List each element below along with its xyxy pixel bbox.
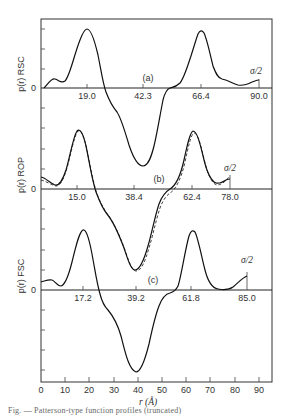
svg-text:50: 50	[157, 385, 167, 395]
svg-text:80: 80	[230, 385, 240, 395]
y-label-a: p(r) RSC	[16, 56, 26, 92]
svg-text:38.4: 38.4	[125, 192, 143, 202]
svg-text:78.0: 78.0	[221, 192, 239, 202]
panel-b: 0 p(r) ROP (b) 15.0 38.4 62.4 78.0 σ/2	[16, 130, 272, 271]
svg-text:20: 20	[84, 385, 94, 395]
svg-text:61.8: 61.8	[182, 293, 200, 303]
svg-text:66.4: 66.4	[192, 91, 210, 101]
panel-tag-b: (b)	[154, 174, 165, 184]
svg-text:85.0: 85.0	[238, 293, 256, 303]
svg-text:17.2: 17.2	[74, 293, 92, 303]
svg-text:15.0: 15.0	[68, 192, 86, 202]
zero-label-b: 0	[31, 184, 36, 194]
y-axis-ticks	[41, 29, 45, 370]
svg-text:0: 0	[38, 385, 43, 395]
svg-text:39.2: 39.2	[127, 293, 145, 303]
svg-text:90.0: 90.0	[250, 91, 268, 101]
zero-label-a: 0	[31, 83, 36, 93]
panel-tag-c: (c)	[148, 275, 159, 285]
sigma-label-c: σ/2	[241, 255, 253, 265]
sigma-label-b: σ/2	[224, 163, 236, 173]
x-axis-ticks	[65, 377, 259, 382]
sigma-label-a: σ/2	[250, 66, 262, 76]
svg-text:40: 40	[133, 385, 143, 395]
svg-text:19.0: 19.0	[78, 91, 96, 101]
figure-caption-partial: Fig. — Patterson-type function profiles …	[8, 406, 181, 415]
svg-text:62.4: 62.4	[183, 192, 201, 202]
svg-text:42.3: 42.3	[134, 91, 152, 101]
svg-text:60: 60	[181, 385, 191, 395]
svg-text:70: 70	[205, 385, 215, 395]
panel-tag-a: (a)	[143, 73, 154, 83]
svg-text:90: 90	[254, 385, 264, 395]
panel-c: 0 p(r) FSC (c) 17.2 39.2 61.8 85.0 σ/2	[16, 230, 272, 372]
panel-a: 0 p(r) RSC (a) 19.0 42.3 66.4 90.0 σ/2	[16, 29, 272, 166]
zero-label-c: 0	[31, 285, 36, 295]
svg-text:10: 10	[60, 385, 70, 395]
svg-text:30: 30	[109, 385, 119, 395]
y-label-b: p(r) ROP	[16, 157, 26, 193]
x-tick-labels: 0 10 20 30 40 50 60 70 80 90	[38, 385, 264, 395]
y-label-c: p(r) FSC	[16, 258, 26, 293]
chart-figure: 0 10 20 30 40 50 60 70 80 90 r (Å) 0 p(r…	[0, 0, 288, 416]
